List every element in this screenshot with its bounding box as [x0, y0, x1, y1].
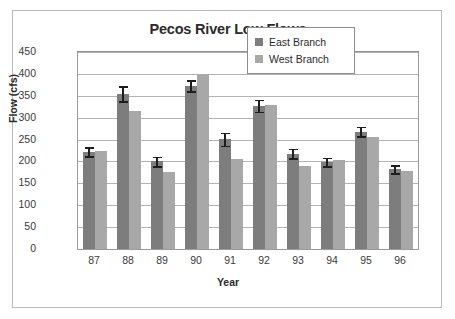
bar: [231, 159, 243, 249]
error-bar-cap: [391, 173, 400, 175]
legend-item: East Branch: [255, 33, 348, 50]
chart-frame: Pecos River Low Flows Flow (cfs) 0501001…: [12, 10, 442, 308]
x-axis-tick-label: 92: [247, 254, 281, 266]
y-axis-tick-label: 150: [2, 176, 36, 188]
y-axis-tick-label: 50: [2, 220, 36, 232]
error-bar-cap: [153, 157, 162, 159]
error-bar: [122, 86, 124, 101]
y-axis-tick-label: 450: [2, 45, 36, 57]
chart-title: Pecos River Low Flows: [13, 21, 443, 37]
legend-item: West Branch: [255, 50, 348, 67]
y-axis-tick-label: 100: [2, 198, 36, 210]
bar: [83, 152, 95, 249]
error-bar: [190, 80, 192, 91]
bar: [367, 137, 379, 250]
bar: [197, 74, 209, 249]
legend-label: East Branch: [269, 36, 326, 48]
error-bar-cap: [85, 156, 94, 158]
error-bar: [224, 133, 226, 146]
bar: [287, 154, 299, 249]
x-axis-tick-label: 91: [213, 254, 247, 266]
y-axis-tick-label: 0: [2, 242, 36, 254]
x-axis-tick-label: 94: [315, 254, 349, 266]
y-axis-tick-label: 300: [2, 111, 36, 123]
x-axis-tick-label: 89: [145, 254, 179, 266]
error-bar-cap: [153, 166, 162, 168]
bar: [389, 169, 401, 249]
error-bar-cap: [187, 80, 196, 82]
bar: [117, 94, 129, 249]
y-axis-tick-label: 350: [2, 89, 36, 101]
y-axis-tick-label: 400: [2, 67, 36, 79]
x-axis-tick-label: 90: [179, 254, 213, 266]
bar: [401, 171, 413, 249]
error-bar-cap: [221, 146, 230, 148]
bar: [95, 151, 107, 249]
x-axis-tick-label: 93: [281, 254, 315, 266]
bar: [253, 106, 265, 249]
error-bar-cap: [391, 165, 400, 167]
bar: [219, 139, 231, 249]
error-bar-cap: [289, 149, 298, 151]
gridline: [78, 96, 418, 97]
error-bar-cap: [323, 158, 332, 160]
bar: [355, 132, 367, 249]
error-bar-cap: [119, 101, 128, 103]
gridline: [78, 74, 418, 75]
bar: [151, 161, 163, 249]
plot-area: [77, 51, 419, 250]
legend-swatch-icon: [255, 55, 263, 63]
bar: [185, 86, 197, 249]
error-bar-cap: [357, 127, 366, 129]
error-bar-cap: [289, 158, 298, 160]
bar: [299, 166, 311, 249]
legend-label: West Branch: [269, 53, 329, 65]
x-axis-tick-label: 96: [383, 254, 417, 266]
error-bar-cap: [323, 166, 332, 168]
error-bar-cap: [187, 91, 196, 93]
x-axis-title: Year: [13, 276, 443, 288]
bar: [129, 111, 141, 249]
bar: [163, 172, 175, 249]
error-bar-cap: [357, 136, 366, 138]
bar: [265, 105, 277, 249]
bar: [333, 160, 345, 249]
error-bar: [258, 100, 260, 112]
error-bar-cap: [85, 147, 94, 149]
bar: [321, 162, 333, 249]
chart-legend: East BranchWest Branch: [247, 27, 355, 74]
legend-swatch-icon: [255, 38, 263, 46]
x-axis-tick-label: 95: [349, 254, 383, 266]
x-axis-tick-label: 88: [111, 254, 145, 266]
error-bar-cap: [255, 112, 264, 114]
y-axis-tick-label: 200: [2, 154, 36, 166]
x-axis-tick-label: 87: [77, 254, 111, 266]
error-bar-cap: [221, 133, 230, 135]
y-axis-tick-label: 250: [2, 133, 36, 145]
error-bar-cap: [255, 100, 264, 102]
error-bar-cap: [119, 86, 128, 88]
